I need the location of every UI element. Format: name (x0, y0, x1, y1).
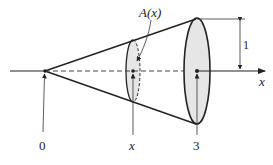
origin-label: 0 (39, 138, 46, 153)
base-center (195, 69, 199, 73)
cone-diagram: A(x) 1 x 0 x 3 (0, 0, 273, 165)
diagram-canvas: A(x) 1 x 0 x 3 (0, 0, 273, 165)
axis-label: x (258, 74, 265, 89)
apex-point (43, 69, 47, 73)
cone-top-edge (45, 19, 196, 71)
end-position-label: 3 (193, 138, 200, 153)
x-position-label: x (128, 138, 135, 153)
cone-bottom-edge (45, 71, 196, 124)
radius-label: 1 (243, 38, 249, 52)
cross-section-center (131, 69, 135, 73)
area-label: A(x) (138, 5, 161, 20)
origin-pointer (43, 74, 45, 132)
